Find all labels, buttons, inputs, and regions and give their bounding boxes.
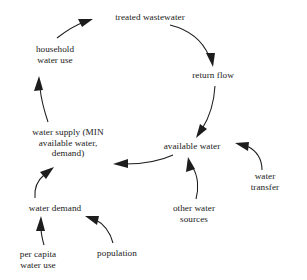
node-population: population (97, 248, 137, 259)
edge-path (202, 86, 215, 129)
edge-path (57, 22, 84, 38)
edge-return-flow-to-available-water (196, 86, 215, 138)
edge-path (35, 175, 44, 198)
edge-population-to-water-demand (85, 216, 113, 243)
node-per-capita-water-use: per capita water use (20, 249, 56, 270)
edge-other-water-sources-to-available-water (186, 157, 198, 199)
node-treated-wastewater: treated wastewater (115, 12, 185, 23)
node-water-supply: water supply (MIN available water, deman… (32, 127, 103, 159)
arrow-head-icon (235, 142, 249, 151)
edge-available-water-to-water-supply (113, 155, 173, 168)
node-other-water-sources: other water sources (173, 203, 215, 224)
node-household-water-use: household water use (36, 44, 74, 65)
node-water-demand: water demand (29, 203, 81, 214)
edge-water-transfer-to-available-water (235, 142, 262, 170)
edge-path (40, 88, 48, 122)
node-available-water: available water (164, 141, 221, 152)
edge-treated-wastewater-to-return-flow (170, 25, 215, 67)
arrow-head-icon (85, 216, 99, 225)
edge-path (193, 168, 198, 199)
arrow-head-icon (206, 53, 215, 67)
edge-path (170, 25, 209, 56)
edge-path (96, 220, 113, 243)
causal-loop-diagram: treated wastewater household water use r… (0, 0, 307, 280)
arrow-head-icon (113, 159, 128, 168)
arrow-head-icon (34, 76, 43, 91)
arrow-head-icon (196, 124, 207, 138)
edge-path (125, 155, 173, 164)
edge-water-supply-to-household-water-use (34, 76, 48, 122)
edge-water-demand-to-water-supply (35, 167, 54, 198)
edge-path (247, 146, 262, 170)
node-return-flow: return flow (192, 70, 234, 81)
node-water-transfer: water transfer (244, 171, 286, 192)
arrow-head-icon (36, 216, 45, 231)
arrow-head-icon (78, 19, 93, 27)
edge-household-to-treated-wastewater (57, 19, 93, 38)
edge-per-capita-to-water-demand (36, 216, 45, 245)
